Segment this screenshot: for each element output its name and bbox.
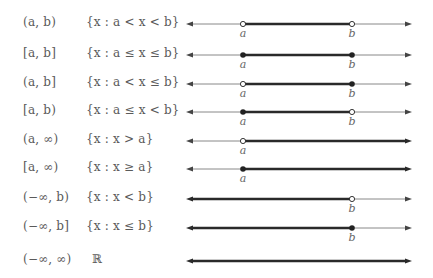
left-arrow-icon xyxy=(186,166,193,171)
left-arrow-icon xyxy=(186,196,193,201)
a-closed-endpoint-icon xyxy=(240,52,246,58)
b-closed-endpoint-icon xyxy=(349,52,355,58)
endpoint-label-a: a xyxy=(240,87,247,100)
endpoint-label-a: a xyxy=(240,172,247,185)
endpoint-label-b: b xyxy=(348,202,355,215)
left-arrow-icon xyxy=(186,109,193,114)
endpoint-label-b: b xyxy=(348,231,355,244)
a-closed-endpoint-icon xyxy=(240,166,246,172)
right-arrow-icon xyxy=(405,52,412,57)
endpoint-label-b: b xyxy=(348,58,355,71)
b-closed-endpoint-icon xyxy=(349,81,355,87)
endpoint-label-b: b xyxy=(348,27,355,40)
endpoint-label-a: a xyxy=(240,144,247,157)
endpoint-label-b: b xyxy=(348,115,355,128)
b-closed-endpoint-icon xyxy=(349,225,355,231)
left-arrow-icon xyxy=(186,52,193,57)
b-open-endpoint-icon xyxy=(349,109,354,114)
right-arrow-icon xyxy=(405,109,412,114)
b-open-endpoint-icon xyxy=(349,21,354,26)
a-closed-endpoint-icon xyxy=(240,109,246,115)
a-open-endpoint-icon xyxy=(240,21,245,26)
right-arrow-icon xyxy=(405,81,412,86)
endpoint-label-a: a xyxy=(240,58,247,71)
right-arrow-icon xyxy=(405,258,412,263)
left-arrow-icon xyxy=(186,138,193,143)
right-arrow-icon xyxy=(405,138,412,143)
endpoint-label-b: b xyxy=(348,87,355,100)
right-arrow-icon xyxy=(405,21,412,26)
a-open-endpoint-icon xyxy=(240,138,245,143)
left-arrow-icon xyxy=(186,81,193,86)
endpoint-label-a: a xyxy=(240,27,247,40)
left-arrow-icon xyxy=(186,225,193,230)
right-arrow-icon xyxy=(405,166,412,171)
endpoint-label-a: a xyxy=(240,115,247,128)
left-arrow-icon xyxy=(186,258,193,263)
b-open-endpoint-icon xyxy=(349,196,354,201)
left-arrow-icon xyxy=(186,21,193,26)
number-lines: ababababaabb xyxy=(0,0,433,278)
right-arrow-icon xyxy=(405,196,412,201)
a-open-endpoint-icon xyxy=(240,81,245,86)
right-arrow-icon xyxy=(405,225,412,230)
